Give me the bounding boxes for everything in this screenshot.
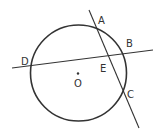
label-c: C (127, 89, 134, 100)
line-ac (89, 10, 139, 128)
label-b: B (126, 38, 133, 49)
center-point-o (77, 72, 79, 74)
label-d: D (21, 56, 29, 67)
label-a: A (98, 15, 105, 26)
label-o: O (74, 78, 82, 89)
geometry-diagram: A B C D E O (0, 0, 157, 133)
label-e: E (100, 63, 106, 74)
